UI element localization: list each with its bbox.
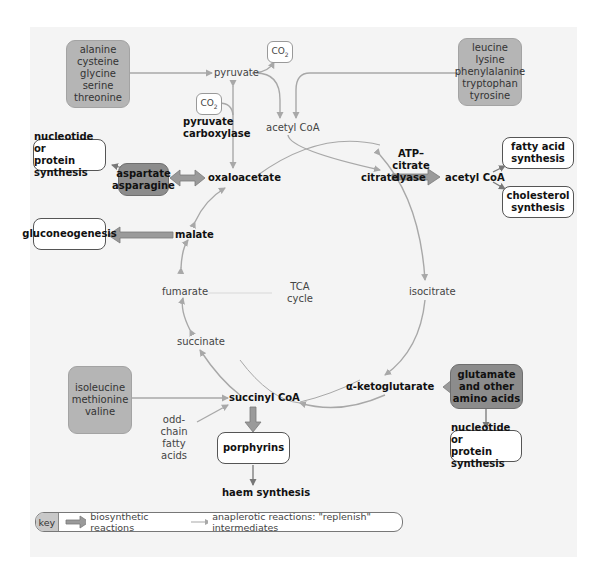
- tca-line: cycle: [280, 293, 320, 305]
- output-line: gluconeogenesis: [22, 228, 116, 240]
- output-line: porphyrins: [223, 442, 284, 454]
- output-line: synthesis: [511, 202, 565, 214]
- arc-akg-succinyl: [300, 395, 385, 408]
- label-alpha-ketoglutarate: α-ketoglutarate: [346, 381, 434, 393]
- aa-group-succinylcoa: isoleucine methionine valine: [68, 366, 132, 434]
- biosynthetic-arrow-icon: [65, 515, 87, 529]
- anaplerotic-arrow-icon: [190, 517, 208, 527]
- label-malate: malate: [175, 229, 214, 241]
- output-gluconeogenesis: gluconeogenesis: [33, 218, 106, 250]
- output-line: protein synthesis: [451, 446, 521, 470]
- arrow-pyruvate-to-acetylcoa: [256, 73, 280, 118]
- arc-succinate-fumarate: [182, 298, 190, 330]
- label-succinate: succinate: [177, 336, 225, 348]
- output-nucleotide-right: nucleotide or protein synthesis: [450, 430, 522, 462]
- co2-text: CO: [200, 98, 213, 108]
- output-porphyrins: porphyrins: [217, 432, 290, 464]
- aa-phenylalanine: phenylalanine: [455, 66, 526, 78]
- arrow-acetylcoa-to-citrate: [288, 135, 380, 170]
- co2-text: CO: [271, 46, 284, 56]
- aa-threonine: threonine: [74, 92, 122, 104]
- co2-box-top: CO2: [267, 41, 293, 63]
- label-oxaloacetate: oxaloacetate: [208, 172, 281, 184]
- output-line: nucleotide or: [34, 131, 105, 155]
- label-odd-chain-fatty-acids: odd-chain fatty acids: [152, 414, 196, 462]
- arc-malate-oxaloacetate: [195, 188, 225, 222]
- aa-glycine: glycine: [80, 68, 116, 80]
- label-acetylcoa-right: acetyl CoA: [445, 172, 505, 184]
- output-line: nucleotide or: [451, 422, 521, 446]
- output-nucleotide-left: nucleotide or protein synthesis: [33, 139, 106, 171]
- co2-subscript: 2: [285, 51, 289, 58]
- thick-arrow-aspartate-oxaloacetate: [170, 170, 205, 186]
- aa-alanine: alanine: [80, 44, 117, 56]
- key-legend: key biosynthetic reactions anaplerotic r…: [35, 512, 403, 532]
- aa-group-glutamate: glutamate and other amino acids: [450, 364, 523, 409]
- arc-succinyl-succinate: [200, 350, 240, 395]
- aa-valine: valine: [85, 406, 115, 418]
- co2-subscript: 2: [214, 103, 218, 110]
- output-line: cholesterol: [507, 190, 570, 202]
- aa-asparagine: asparagine: [112, 180, 175, 192]
- aa-tryptophan: tryptophan: [462, 78, 518, 90]
- thick-arrow-malate-gluconeogenesis: [108, 227, 173, 243]
- aa-isoleucine: isoleucine: [75, 382, 125, 394]
- enzyme-line: pyruvate: [183, 116, 233, 128]
- thick-arrow-succinylcoa-porphyrins: [245, 407, 261, 432]
- aa-group-pyruvate: alanine cysteine glycine serine threonin…: [66, 40, 130, 108]
- aa-tyrosine: tyrosine: [470, 90, 510, 102]
- aa-leucine: leucine: [472, 42, 508, 54]
- arc-oxaloacetate-citrate: [258, 141, 380, 175]
- aa-cysteine: cysteine: [77, 56, 119, 68]
- arrow-oddchain-to-succinylcoa: [197, 405, 228, 422]
- aa-amino-acids: amino acids: [453, 393, 520, 405]
- label-tca-cycle: TCA cycle: [280, 281, 320, 305]
- key-label: key: [36, 513, 59, 531]
- aa-and-other: and other: [459, 381, 514, 393]
- aa-group-acetylcoa: leucine lysine phenylalanine tryptophan …: [458, 38, 522, 106]
- aa-serine: serine: [83, 80, 114, 92]
- enzyme-line: lyase: [385, 172, 437, 184]
- label-fumarate: fumarate: [162, 286, 208, 298]
- label-haem-synthesis: haem synthesis: [222, 487, 310, 499]
- label-acetylcoa-top: acetyl CoA: [266, 122, 320, 134]
- label-pyruvate: pyruvate: [214, 67, 259, 79]
- arc-fumarate-malate: [181, 240, 188, 268]
- tca-line: TCA: [280, 281, 320, 293]
- output-line: protein synthesis: [34, 155, 105, 179]
- odd-chain-line: odd-chain: [152, 414, 196, 438]
- label-atp-citrate-lyase: ATP–citrate lyase: [385, 148, 437, 184]
- output-cholesterol: cholesterol synthesis: [502, 186, 574, 218]
- label-pyruvate-carboxylase: pyruvate carboxylase: [183, 116, 233, 140]
- key-anaplerotic-label: anaplerotic reactions: "replenish" inter…: [212, 512, 402, 532]
- output-fatty-acid: fatty acid synthesis: [502, 137, 574, 169]
- co2-box-left: CO2: [196, 93, 222, 115]
- arc-isocitrate-akg: [385, 300, 425, 375]
- enzyme-line: carboxylase: [183, 128, 233, 140]
- aa-aspartate: aspartate: [116, 168, 171, 180]
- label-succinylcoa: succinyl CoA: [229, 392, 300, 404]
- enzyme-line: ATP–citrate: [385, 148, 437, 172]
- aa-glutamate: glutamate: [458, 369, 516, 381]
- odd-chain-line: fatty acids: [152, 438, 196, 462]
- output-line: fatty acid: [511, 141, 565, 153]
- aa-group-aspartate: aspartate asparagine: [118, 163, 169, 196]
- output-line: synthesis: [511, 153, 565, 165]
- label-isocitrate: isocitrate: [409, 286, 456, 298]
- aa-methionine: methionine: [72, 394, 129, 406]
- key-biosynthetic-label: biosynthetic reactions: [90, 512, 178, 532]
- arrow-ketogenic-to-acetylcoa: [296, 73, 458, 118]
- aa-lysine: lysine: [475, 54, 504, 66]
